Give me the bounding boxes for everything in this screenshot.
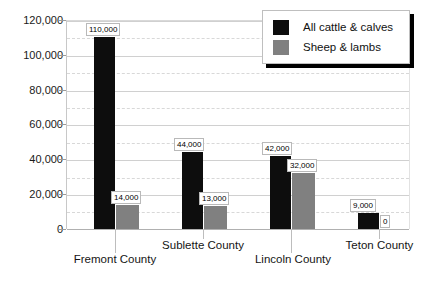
gridline-70000 [67,108,409,109]
ytick-label-80000: 80,000 [0,85,63,96]
ytick-mark-40000 [59,159,66,160]
bar-sublette-cattle [182,152,203,229]
bar-lincoln-sheep [292,173,315,229]
value-label-fremont-sheep: 14,000 [111,191,141,204]
ytick-mark-0 [59,229,66,230]
bar-sublette-sheep [204,206,227,229]
ytick-label-60000: 60,000 [0,119,63,130]
xcat-label-lincoln: Lincoln County [233,253,353,266]
legend-swatch-icon-cattle [273,20,289,35]
ytick-label-0: 0 [0,224,63,235]
value-label-lincoln-sheep: 32,000 [287,159,317,172]
gridline-0 [67,229,409,230]
ytick-mark-80000 [59,90,66,91]
xcat-label-sublette: Sublette County [143,239,263,252]
value-label-sublette-cattle: 44,000 [174,138,204,151]
xtick-fremont [115,229,116,253]
gridline-40000 [67,160,409,161]
ytick-mark-100000 [59,55,66,56]
legend-label-sheep: Sheep & lambs [303,41,381,54]
legend-label-cattle: All cattle & calves [303,21,393,34]
gridline-50000 [67,143,409,144]
bar-teton-cattle [358,213,379,229]
legend-item-sheep-lambs[interactable]: Sheep & lambs [273,38,381,56]
legend: All cattle & calves Sheep & lambs [262,10,410,64]
ytick-label-100000: 100,000 [0,50,63,61]
value-label-teton-cattle: 9,000 [350,199,376,212]
ytick-mark-20000 [59,194,66,195]
ytick-mark-120000 [59,20,66,21]
xcat-label-fremont: Fremont County [55,253,175,266]
value-label-lincoln-cattle: 42,000 [262,142,292,155]
xcat-label-teton: Teton County [322,239,437,252]
gridline-30000 [67,178,409,179]
xtick-lincoln [291,229,292,253]
gridline-90000 [67,73,409,74]
ytick-mark-60000 [59,124,66,125]
ytick-label-40000: 40,000 [0,154,63,165]
gridline-60000 [67,125,409,126]
value-label-sublette-sheep: 13,000 [199,192,229,205]
xtick-sublette [203,229,204,239]
ytick-label-120000: 120,000 [0,15,63,26]
gridline-80000 [67,91,409,92]
legend-item-all-cattle-calves[interactable]: All cattle & calves [273,18,393,36]
ytick-label-20000: 20,000 [0,189,63,200]
bar-fremont-sheep [116,205,139,229]
legend-swatch-icon-sheep [273,40,289,55]
value-label-teton-sheep: 0 [380,215,390,228]
xtick-teton [379,229,380,239]
bar-chart: 120,000 100,000 80,000 60,000 40,000 20,… [0,0,437,281]
value-label-fremont-cattle: 110,000 [86,23,120,36]
